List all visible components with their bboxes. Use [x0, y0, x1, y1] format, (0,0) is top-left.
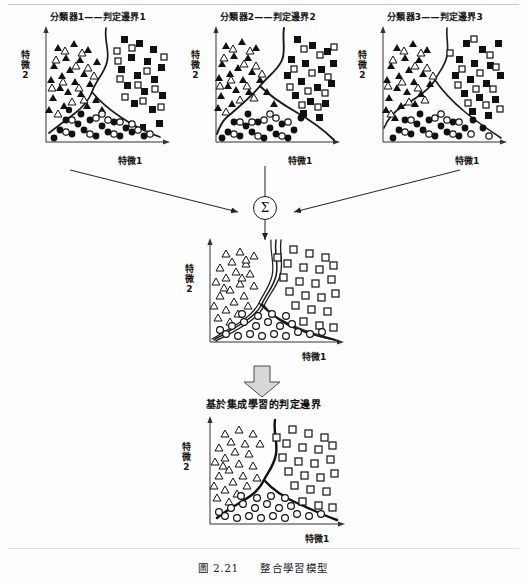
scatter-plot-3 [355, 10, 515, 170]
markers-triangles-final [210, 426, 264, 505]
y-axis-label-2: 特 微 2 [190, 50, 201, 80]
markers-squares-2 [284, 36, 337, 121]
figure-caption-number: 圖 2.21 [198, 562, 238, 574]
axes-2 [213, 26, 340, 145]
sigma-combiner-node: Σ [253, 196, 277, 220]
ensemble-boundary-label: 基於集成學習的判定邊界 [0, 396, 527, 411]
figure-caption: 圖 2.21 整合學習模型 [0, 560, 527, 575]
panel-classifier-3: 分類器3——判定邊界3 特 微 2 特微1 [355, 10, 515, 170]
figure-page: 分類器1——判定邊界1 特 微 2 特微1 [0, 0, 527, 583]
panel-combined-boundaries: 特 微 2 特微1 [180, 236, 360, 366]
markers-circles-1 [51, 107, 154, 142]
plot-title-1: 分類器1——判定邊界1 [18, 10, 178, 23]
sigma-symbol: Σ [261, 202, 269, 214]
plot-title-2: 分類器2——判定邊界2 [188, 10, 348, 23]
arrow-from-classifier-1 [70, 170, 238, 212]
scatter-plot-1 [18, 10, 178, 170]
markers-triangles-3 [382, 40, 434, 121]
markers-squares-1 [114, 36, 167, 130]
arrow-from-classifier-3 [294, 170, 460, 212]
block-arrow-down-icon [242, 366, 282, 398]
page-top-rule [8, 4, 519, 5]
markers-circles-2 [219, 111, 305, 142]
x-axis-label-combined: 特微1 [302, 350, 326, 363]
panel-ensemble-boundary: 特 微 2 特微1 [165, 412, 365, 547]
y-axis-label-1: 特 微 2 [20, 50, 31, 80]
markers-circles-combined [217, 311, 326, 340]
plot-title-3: 分類器3——判定邊界3 [355, 10, 515, 23]
y-axis-label-3: 特 微 2 [357, 50, 368, 80]
panel-classifier-1: 分類器1——判定邊界1 特 微 2 特微1 [18, 10, 178, 170]
scatter-plot-final [165, 412, 365, 547]
y-axis-label-final: 特 微 2 [181, 442, 192, 472]
scatter-plot-combined [180, 236, 360, 366]
x-axis-label-final: 特微1 [305, 532, 329, 545]
markers-circles-3 [390, 111, 493, 142]
markers-squares-3 [447, 36, 504, 119]
scatter-plot-2 [188, 10, 348, 170]
panel-classifier-2: 分類器2——判定邊界2 特 微 2 特微1 [188, 10, 348, 170]
y-axis-label-combined: 特 微 2 [184, 264, 195, 294]
page-bottom-rule [8, 548, 519, 549]
figure-caption-title: 整合學習模型 [260, 562, 328, 574]
